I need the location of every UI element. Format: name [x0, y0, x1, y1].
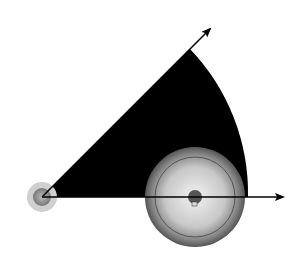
chain-drive-diagram — [0, 0, 300, 272]
